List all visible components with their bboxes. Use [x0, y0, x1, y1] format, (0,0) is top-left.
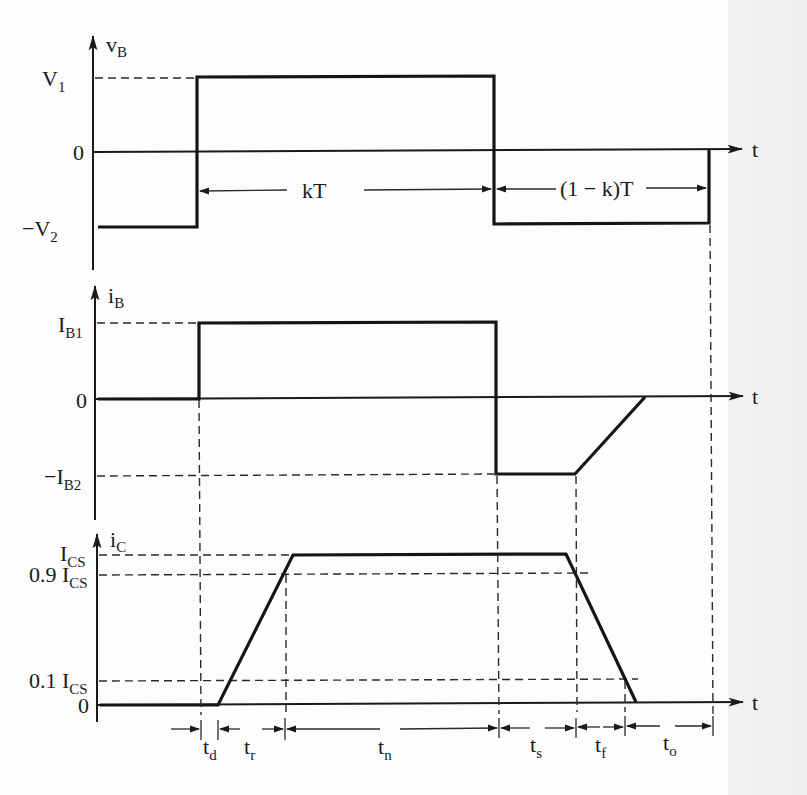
- iC-t-label: t: [752, 690, 758, 715]
- tr-label: tr: [244, 734, 255, 763]
- td-label: td: [203, 734, 217, 763]
- vertical-guides: [199, 225, 713, 715]
- panel-iB: iB t IB1 0 −IB2: [44, 283, 758, 520]
- level-V1: V1: [42, 66, 65, 95]
- vB-t-label: t: [752, 137, 758, 162]
- 0.1ICS-guide: [99, 679, 638, 681]
- 0.9ICS-guide: [99, 573, 590, 575]
- guide-period-end: [710, 225, 713, 714]
- kT-arrow-left: [200, 190, 287, 191]
- vB-axis-label: vB: [106, 32, 127, 60]
- diagram-canvas: vB t V1 0 −V2 kT (1 − k)T iB t IB1 0 −IB…: [0, 0, 807, 795]
- panel-iC: iC t ICS 0.9 ICS 0.1 ICS 0: [29, 527, 758, 763]
- kT-arrow-right: [364, 189, 491, 190]
- to-label: to: [663, 730, 677, 759]
- panel-vB: vB t V1 0 −V2 kT (1 − k)T: [22, 32, 758, 270]
- ts-label: ts: [530, 732, 542, 761]
- iB-t-label: t: [752, 384, 758, 409]
- tn-label: tn: [378, 734, 392, 763]
- kT-label: kT: [302, 178, 327, 203]
- level-minus-IB2: −IB2: [44, 464, 81, 493]
- tf-label: tf: [595, 732, 606, 761]
- level-minus-V2: −V2: [22, 216, 58, 245]
- vB-time-axis: [93, 149, 742, 152]
- tn-arrow-right: [400, 728, 497, 729]
- iC-waveform: [100, 554, 636, 705]
- guide-turn-on: [199, 400, 201, 715]
- IB2-guide: [97, 474, 494, 476]
- level-zero-iC: 0: [78, 693, 89, 718]
- interval-dimensions: td tr tn ts tf to: [171, 716, 713, 763]
- iB-axis-label: iB: [108, 283, 124, 311]
- switching-waveforms-svg: vB t V1 0 −V2 kT (1 − k)T iB t IB1 0 −IB…: [0, 0, 807, 795]
- iC-axis-label: iC: [110, 527, 126, 555]
- level-zero-vB: 0: [73, 140, 84, 165]
- 1-k-T-label: (1 − k)T: [560, 176, 634, 201]
- level-IB1: IB1: [58, 312, 83, 341]
- guide-storage-end: [576, 476, 577, 712]
- level-zero-iB: 0: [76, 388, 87, 413]
- guide-turn-off: [497, 476, 499, 714]
